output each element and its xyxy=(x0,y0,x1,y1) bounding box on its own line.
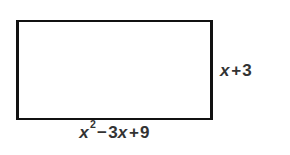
width-term2-coefficient: 3 xyxy=(108,124,118,141)
width-term3-constant: 9 xyxy=(140,124,150,141)
width-term1-variable: x xyxy=(79,124,89,141)
width-dimension-label: x2−3x+9 xyxy=(16,124,213,141)
height-constant: 3 xyxy=(242,62,252,79)
rectangle-figure: x+3 x2−3x+9 xyxy=(0,0,290,155)
height-dimension-label: x+3 xyxy=(220,20,252,120)
height-variable: x xyxy=(220,62,230,79)
width-term2-variable: x xyxy=(118,124,128,141)
height-operator: + xyxy=(230,62,242,79)
width-operator-1: − xyxy=(96,124,108,141)
width-operator-2: + xyxy=(128,124,140,141)
rectangle-shape xyxy=(16,20,213,120)
